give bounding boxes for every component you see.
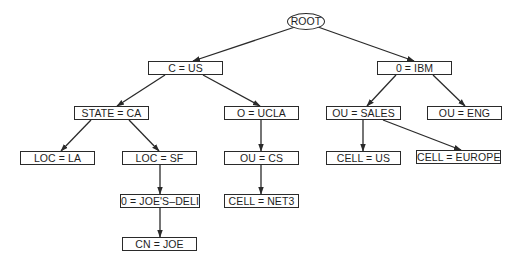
tree-node-cell-us: CELL = US	[326, 151, 401, 165]
edge-arrow-c_us-to-o_ucla	[203, 75, 260, 106]
tree-node-cell-net3: CELL = NET3	[224, 194, 299, 208]
edge-arrow-state_ca-to-loc_sf	[129, 120, 159, 151]
tree-node-o-joes: 0 = JOE'S–DELI	[120, 194, 200, 208]
edge-arrow-c_us-to-state_ca	[117, 75, 165, 106]
edge-arrow-root-to-o_ibm	[318, 27, 414, 61]
edge-arrow-o_ibm-to-ou_eng	[433, 75, 465, 106]
tree-node-ou-eng: OU = ENG	[427, 106, 502, 120]
edge-arrow-o_ibm-to-ou_sales	[367, 75, 396, 106]
tree-node-cell-eu: CELL = EUROPE	[416, 150, 501, 164]
tree-node-root: ROOT	[287, 13, 325, 30]
tree-node-loc-sf: LOC = SF	[122, 151, 197, 165]
tree-node-state-ca: STATE = CA	[74, 106, 149, 120]
directory-tree-diagram: ROOTC = US0 = IBMSTATE = CAO = UCLAOU = …	[0, 0, 522, 265]
edge-arrow-state_ca-to-loc_la	[61, 120, 91, 151]
tree-node-c-us: C = US	[148, 61, 223, 75]
tree-node-o-ibm: 0 = IBM	[377, 61, 452, 75]
edge-arrow-root-to-c_us	[193, 27, 295, 61]
tree-node-o-ucla: O = UCLA	[224, 106, 299, 120]
tree-edges	[0, 0, 522, 265]
tree-node-ou-sales: OU = SALES	[326, 106, 401, 120]
edge-arrow-ou_sales-to-cell_eu	[383, 120, 461, 150]
tree-node-cn-joe: CN = JOE	[122, 237, 197, 251]
tree-node-loc-la: LOC = LA	[20, 151, 95, 165]
tree-node-ou-cs: OU = CS	[224, 151, 299, 165]
